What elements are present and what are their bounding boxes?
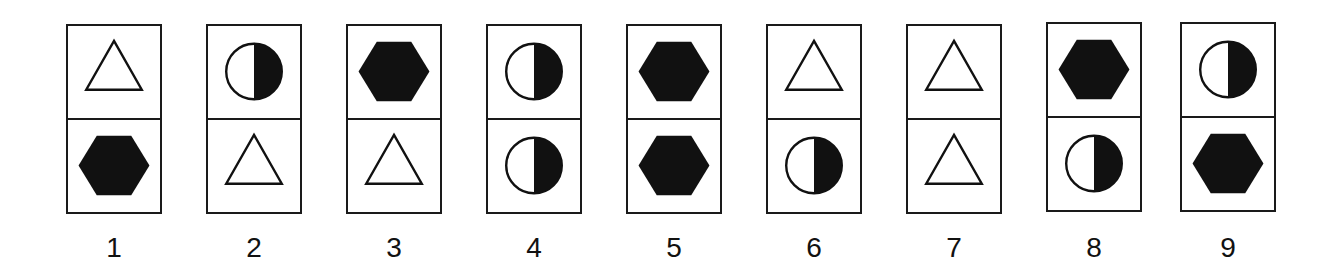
card-number-label: 6 bbox=[766, 232, 862, 264]
card-number-label: 8 bbox=[1046, 232, 1142, 264]
hexagon-shape bbox=[79, 136, 150, 195]
card-cell-top bbox=[208, 26, 300, 119]
card-number-label: 5 bbox=[626, 232, 722, 264]
circle-filled-half bbox=[534, 138, 562, 194]
half-filled-circle-icon bbox=[768, 120, 860, 212]
half-filled-circle-icon bbox=[1182, 24, 1274, 116]
card-number-label: 4 bbox=[486, 232, 582, 264]
card-1 bbox=[66, 24, 162, 214]
card-cell-top bbox=[348, 26, 440, 119]
triangle-outline-icon bbox=[768, 26, 860, 118]
card-2 bbox=[206, 24, 302, 214]
hexagon-shape bbox=[639, 42, 710, 101]
card-cell-bottom bbox=[908, 119, 1000, 212]
card-number-label: 2 bbox=[206, 232, 302, 264]
triangle-shape bbox=[926, 135, 982, 184]
card-cell-bottom bbox=[768, 119, 860, 212]
hexagon-filled-icon bbox=[1182, 118, 1274, 210]
card-number-label: 7 bbox=[906, 232, 1002, 264]
card-cell-bottom bbox=[1048, 117, 1140, 210]
triangle-outline-icon bbox=[348, 120, 440, 212]
hexagon-filled-icon bbox=[628, 120, 720, 212]
card-cell-bottom bbox=[208, 119, 300, 212]
card-cell-top bbox=[68, 26, 160, 119]
card-cell-bottom bbox=[1182, 117, 1274, 210]
half-filled-circle-icon bbox=[1048, 118, 1140, 210]
hexagon-filled-icon bbox=[628, 26, 720, 118]
half-filled-circle-icon bbox=[488, 26, 580, 118]
half-filled-circle-icon bbox=[488, 120, 580, 212]
card-cell-bottom bbox=[628, 119, 720, 212]
triangle-shape bbox=[786, 41, 842, 90]
hexagon-filled-icon bbox=[348, 26, 440, 118]
half-filled-circle-icon bbox=[208, 26, 300, 118]
triangle-outline-icon bbox=[68, 26, 160, 118]
card-cell-top bbox=[1182, 24, 1274, 117]
triangle-shape bbox=[926, 41, 982, 90]
card-number-label: 9 bbox=[1180, 232, 1276, 264]
triangle-shape bbox=[366, 135, 422, 184]
card-5 bbox=[626, 24, 722, 214]
triangle-outline-icon bbox=[908, 26, 1000, 118]
circle-filled-half bbox=[254, 44, 282, 100]
hexagon-shape bbox=[359, 42, 430, 101]
card-3 bbox=[346, 24, 442, 214]
hexagon-filled-icon bbox=[68, 120, 160, 212]
card-cell-top bbox=[628, 26, 720, 119]
card-9 bbox=[1180, 22, 1276, 212]
circle-filled-half bbox=[534, 44, 562, 100]
card-cell-top bbox=[768, 26, 860, 119]
card-number-label: 1 bbox=[66, 232, 162, 264]
circle-filled-half bbox=[1094, 136, 1122, 192]
hexagon-shape bbox=[639, 136, 710, 195]
triangle-shape bbox=[226, 135, 282, 184]
triangle-outline-icon bbox=[908, 120, 1000, 212]
triangle-outline-icon bbox=[208, 120, 300, 212]
hexagon-shape bbox=[1059, 40, 1130, 99]
card-cell-bottom bbox=[488, 119, 580, 212]
card-cell-top bbox=[488, 26, 580, 119]
card-7 bbox=[906, 24, 1002, 214]
hexagon-filled-icon bbox=[1048, 24, 1140, 116]
hexagon-shape bbox=[1193, 134, 1264, 193]
card-4 bbox=[486, 24, 582, 214]
card-cell-bottom bbox=[348, 119, 440, 212]
card-cell-bottom bbox=[68, 119, 160, 212]
card-number-label: 3 bbox=[346, 232, 442, 264]
card-6 bbox=[766, 24, 862, 214]
card-cell-top bbox=[1048, 24, 1140, 117]
card-cell-top bbox=[908, 26, 1000, 119]
circle-filled-half bbox=[1228, 42, 1256, 98]
triangle-shape bbox=[86, 41, 142, 90]
card-8 bbox=[1046, 22, 1142, 212]
circle-filled-half bbox=[814, 138, 842, 194]
